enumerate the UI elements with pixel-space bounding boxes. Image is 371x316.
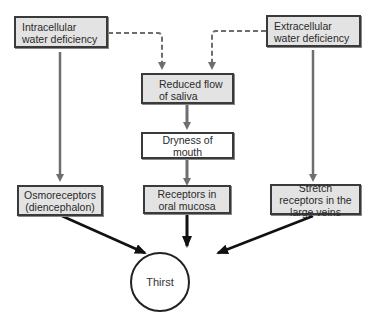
node-extracellular: Extracellular water deficiency: [266, 15, 361, 47]
dashed-arrow-intra-to-saliva: [108, 33, 162, 66]
node-dryness: Dryness of mouth: [141, 132, 234, 159]
node-reduced-flow: Reduced flow of saliva: [141, 73, 234, 104]
node-oral-receptors: Receptors in oral mucosa: [143, 185, 231, 214]
node-dryness-label: Dryness of mouth: [149, 134, 226, 158]
arrow-stretch-to-thirst: [218, 216, 313, 253]
arrow-osmo-to-thirst: [62, 216, 145, 253]
node-thirst-label: Thirst: [146, 276, 174, 288]
node-thirst: Thirst: [130, 252, 190, 312]
node-stretch-receptors: Stretch receptors in the large veins: [270, 184, 361, 215]
node-extracellular-label: Extracellular water deficiency: [274, 20, 349, 44]
node-stretch-receptors-label: Stretch receptors in the large veins: [278, 182, 353, 218]
node-oral-receptors-label: Receptors in oral mucosa: [151, 188, 223, 212]
node-intracellular: Intracellular water deficiency: [14, 16, 108, 48]
node-intracellular-label: Intracellular water deficiency: [22, 21, 97, 45]
dashed-arrow-extra-to-saliva: [212, 31, 266, 66]
node-reduced-flow-label: Reduced flow of saliva: [159, 78, 223, 102]
node-osmoreceptors: Osmoreceptors (diencephalon): [17, 185, 103, 216]
node-osmoreceptors-label: Osmoreceptors (diencephalon): [24, 189, 96, 213]
